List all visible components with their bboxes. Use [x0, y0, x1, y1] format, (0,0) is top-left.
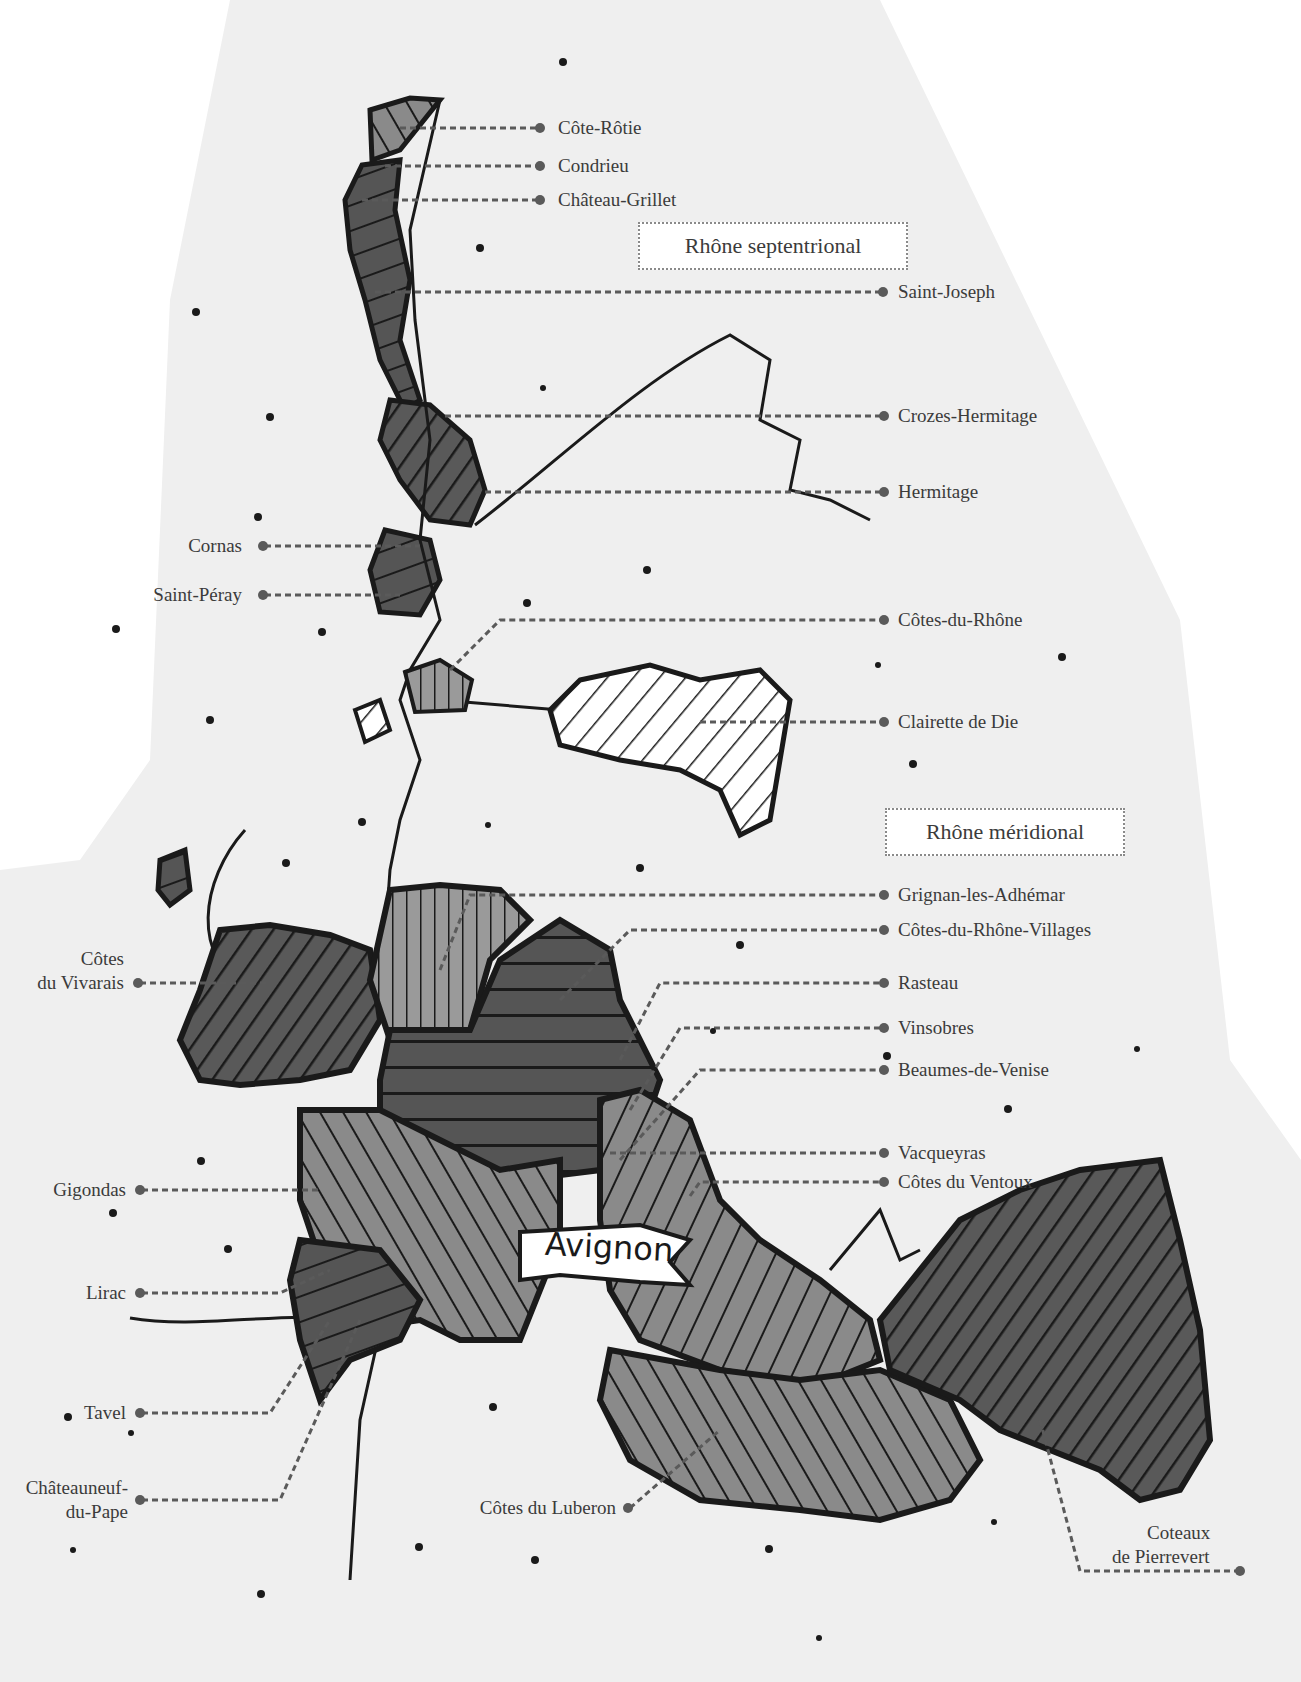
label-vinsobres: Vinsobres — [898, 1017, 974, 1039]
region-box-north-label: Rhône septentrional — [685, 233, 862, 259]
label-beaumes-de-venise: Beaumes-de-Venise — [898, 1059, 1049, 1081]
label-clairette-de-die: Clairette de Die — [898, 711, 1018, 733]
label-chateauneuf-1: Châteauneuf- — [0, 1477, 128, 1499]
label-chateauneuf-2: du-Pape — [0, 1501, 128, 1523]
label-coteaux-pierrevert-2: de Pierrevert — [1112, 1546, 1210, 1568]
label-cote-rotie: Côte-Rôtie — [558, 117, 641, 139]
region-box-south-label: Rhône méridional — [926, 819, 1084, 845]
label-cotes-vivarais-1: Côtes — [0, 948, 124, 970]
label-chateau-grillet: Château-Grillet — [558, 189, 676, 211]
label-cornas: Cornas — [100, 535, 242, 557]
label-cotes-du-rhone: Côtes-du-Rhône — [898, 609, 1023, 631]
label-cotes-du-luberon: Côtes du Luberon — [420, 1497, 616, 1519]
label-coteaux-pierrevert-1: Coteaux — [1147, 1522, 1210, 1544]
label-vacqueyras: Vacqueyras — [898, 1142, 986, 1164]
region-box-north: Rhône septentrional — [638, 222, 908, 270]
label-cotes-du-rhone-villages: Côtes-du-Rhône-Villages — [898, 919, 1091, 941]
region-box-south: Rhône méridional — [885, 808, 1125, 856]
label-saint-peray: Saint-Péray — [100, 584, 242, 606]
label-grignan-les-adhemar: Grignan-les-Adhémar — [898, 884, 1065, 906]
label-rasteau: Rasteau — [898, 972, 958, 994]
city-label-avignon: Avignon — [544, 1225, 674, 1270]
label-condrieu: Condrieu — [558, 155, 629, 177]
label-cotes-vivarais-2: du Vivarais — [0, 972, 124, 994]
label-cotes-du-ventoux: Côtes du Ventoux — [898, 1171, 1033, 1193]
label-lirac: Lirac — [0, 1282, 126, 1304]
label-gigondas: Gigondas — [0, 1179, 126, 1201]
label-tavel: Tavel — [0, 1402, 126, 1424]
label-crozes-hermitage: Crozes-Hermitage — [898, 405, 1037, 427]
label-saint-joseph: Saint-Joseph — [898, 281, 995, 303]
label-hermitage: Hermitage — [898, 481, 978, 503]
